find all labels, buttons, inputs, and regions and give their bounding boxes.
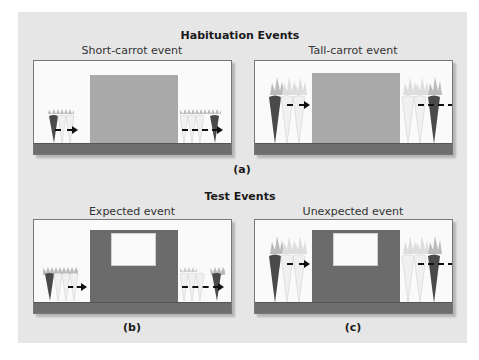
plain-screen <box>90 75 178 145</box>
carrot-icon <box>267 234 307 304</box>
windowed-screen <box>90 230 178 302</box>
test-title: Test Events <box>140 190 340 203</box>
dashed-arrow-icon <box>287 263 305 265</box>
carrot-icon <box>43 266 81 302</box>
dashed-arrow-icon <box>418 263 453 265</box>
dashed-arrow-icon <box>182 129 218 131</box>
ground-strip <box>255 143 452 154</box>
expected-panel <box>33 219 232 314</box>
unexpected-panel <box>254 219 453 314</box>
dashed-arrow-icon <box>418 104 453 106</box>
carrot-icon <box>267 75 307 145</box>
ground-strip <box>34 302 231 313</box>
carrot-icon <box>47 108 75 144</box>
short-carrot-panel <box>33 60 232 155</box>
ground-strip <box>255 302 452 313</box>
short-carrot-title: Short-carrot event <box>33 44 231 57</box>
windowed-screen <box>312 230 400 302</box>
habituation-title: Habituation Events <box>140 29 340 42</box>
dashed-arrow-icon <box>68 286 82 288</box>
carrot-icon <box>400 234 444 304</box>
screen-window <box>333 233 378 266</box>
tall-carrot-panel <box>254 60 453 155</box>
label-b: (b) <box>33 321 231 334</box>
dashed-arrow-icon <box>182 286 219 288</box>
label-c: (c) <box>254 321 452 334</box>
ground-strip <box>34 143 231 154</box>
label-a: (a) <box>143 163 341 176</box>
carrot-icon <box>400 75 444 145</box>
dashed-arrow-icon <box>55 129 73 131</box>
screen-window <box>111 233 156 266</box>
plain-screen <box>312 73 400 145</box>
expected-title: Expected event <box>33 205 231 218</box>
tall-carrot-title: Tall-carrot event <box>254 44 452 57</box>
dashed-arrow-icon <box>287 104 305 106</box>
unexpected-title: Unexpected event <box>254 205 452 218</box>
